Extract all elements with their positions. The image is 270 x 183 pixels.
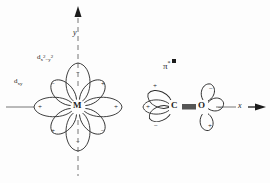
- metal-atom-label: M: [73, 101, 82, 110]
- sign-carbon-left: +: [146, 103, 150, 111]
- sign-metal-right: +: [114, 103, 118, 111]
- y-axis-arrowhead: [75, 6, 82, 17]
- x-axis-label: x: [238, 102, 242, 110]
- y-axis-label: y: [73, 29, 77, 37]
- oxygen-atom-label: O: [198, 101, 205, 110]
- x-axis-arrowhead: [255, 104, 266, 111]
- sign-metal-down: −: [76, 138, 80, 146]
- x-axis: [6, 104, 266, 111]
- sign-oxygen-lower: +: [208, 122, 212, 130]
- sign-metal-up: −: [76, 69, 80, 77]
- sign-oxygen-right: −: [218, 104, 222, 112]
- pi-star-orbital-label: π*: [163, 60, 171, 71]
- sign-metal-upleft: −: [51, 80, 55, 88]
- sign-oxygen-upper: −: [209, 85, 213, 93]
- diagram-vector-layer: − − + + − − + + + + − − − +: [0, 0, 270, 183]
- carbon-atom-label: C: [171, 101, 178, 110]
- orbital-diagram-canvas: − − + + − − + + + + − − − + y x: [0, 0, 270, 183]
- pistar-label-marker: [172, 59, 176, 63]
- sign-metal-downleft: +: [51, 127, 55, 135]
- dx2-y2-orbital-label: dx2−y2: [37, 54, 53, 62]
- sign-metal-downright: −: [101, 127, 105, 135]
- sign-metal-left: +: [38, 103, 42, 111]
- bond-bar: [182, 104, 196, 110]
- sign-carbon-upperleft: +: [153, 82, 157, 90]
- dxy-orbital-label: dxy: [14, 78, 23, 86]
- carbon-oxygen-bond: [182, 104, 196, 110]
- sign-carbon-lowerleft: −: [154, 122, 158, 130]
- sign-metal-upright: +: [101, 80, 105, 88]
